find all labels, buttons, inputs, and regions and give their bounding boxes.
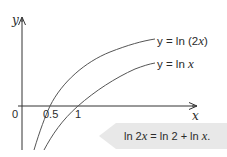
curve-label-ln-x-prefix: y = ln (157, 58, 188, 70)
curve-label-ln-2x-suffix: ) (204, 35, 208, 47)
curve-label-ln-2x: y = ln (2x) (157, 34, 208, 48)
x-axis-label: x (192, 110, 199, 122)
callout-part1: ln 2 (124, 130, 142, 142)
x-tick-1: 1 (75, 109, 81, 120)
y-axis-label: y (12, 14, 19, 26)
callout-part3: . (207, 130, 210, 142)
callout-part2: = ln 2 + ln (147, 130, 201, 142)
curve-label-ln-2x-prefix: y = ln (2 (157, 35, 198, 47)
origin-label: 0 (12, 109, 18, 120)
curve-label-ln-x: y = ln x (157, 57, 194, 71)
x-tick-0-5: 0.5 (43, 109, 58, 120)
callout-identity-text: ln 2x = ln 2 + ln x. (124, 130, 210, 143)
log-graph-figure: y x 0 0.5 1 y = ln (2x) y = ln x ln 2x =… (0, 0, 227, 157)
curve-label-ln-x-var: x (188, 56, 194, 71)
